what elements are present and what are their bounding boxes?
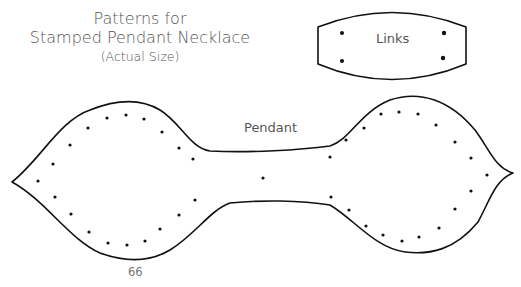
links-label: Links <box>376 31 409 46</box>
pattern-artwork <box>0 0 521 287</box>
pendant-label: Pendant <box>244 120 297 135</box>
links-pattern <box>318 13 466 80</box>
page-number: 66 <box>128 265 143 279</box>
